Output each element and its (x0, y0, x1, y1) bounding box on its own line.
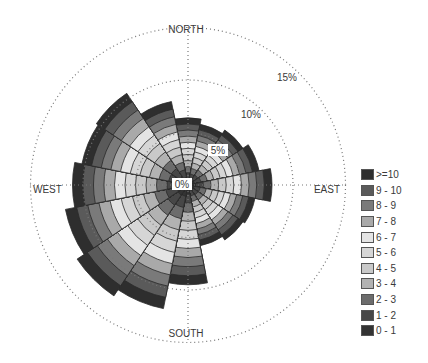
tick-label-5: 5% (211, 145, 226, 156)
legend-swatch (361, 247, 374, 258)
legend-label: 9 - 10 (376, 185, 402, 196)
legend-swatch (361, 263, 374, 274)
legend-item: 5 - 6 (361, 245, 402, 261)
legend-swatch (361, 310, 374, 321)
wind-rose-petals (65, 93, 272, 308)
legend-label: 5 - 6 (376, 247, 396, 258)
legend-item: 6 - 7 (361, 229, 402, 245)
legend-swatch (361, 216, 374, 227)
legend-swatch (361, 200, 374, 211)
legend-item: 1 - 2 (361, 307, 402, 323)
legend-label: 3 - 4 (376, 278, 396, 289)
legend-label: 2 - 3 (376, 294, 396, 305)
legend-item: 9 - 10 (361, 183, 402, 199)
west-label: WEST (33, 184, 62, 195)
east-label: EAST (314, 184, 340, 195)
legend-label: 4 - 5 (376, 263, 396, 274)
legend: >=109 - 108 - 97 - 86 - 75 - 64 - 53 - 4… (361, 167, 402, 339)
legend-swatch (361, 294, 374, 305)
legend-label: 8 - 9 (376, 200, 396, 211)
north-label: NORTH (168, 24, 203, 35)
legend-item: 3 - 4 (361, 276, 402, 292)
legend-swatch (361, 185, 374, 196)
tick-label-15: 15% (277, 72, 297, 83)
legend-item: 0 - 1 (361, 323, 402, 339)
legend-label: >=10 (376, 169, 399, 180)
legend-swatch (361, 325, 374, 336)
tick-label-0: 0% (175, 179, 190, 190)
legend-label: 6 - 7 (376, 232, 396, 243)
legend-label: 7 - 8 (376, 216, 396, 227)
legend-label: 1 - 2 (376, 310, 396, 321)
legend-label: 0 - 1 (376, 325, 396, 336)
tick-label-10: 10% (241, 109, 261, 120)
legend-swatch (361, 278, 374, 289)
legend-item: 7 - 8 (361, 214, 402, 230)
south-label: SOUTH (169, 328, 204, 339)
legend-item: 2 - 3 (361, 292, 402, 308)
legend-item: 4 - 5 (361, 261, 402, 277)
legend-swatch (361, 232, 374, 243)
legend-item: 8 - 9 (361, 198, 402, 214)
legend-swatch (361, 169, 374, 180)
legend-item: >=10 (361, 167, 402, 183)
